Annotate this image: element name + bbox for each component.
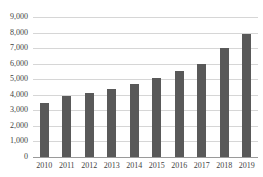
x-tick-label-2017: 2017	[194, 161, 210, 170]
x-tick-label-2010: 2010	[36, 161, 52, 170]
bar-2011[interactable]	[62, 96, 71, 157]
y-tick-label: 0	[24, 153, 28, 161]
bar-2013[interactable]	[107, 89, 116, 157]
bars-layer	[33, 17, 258, 157]
bar-2012[interactable]	[85, 93, 94, 157]
y-tick-label: 5,000	[10, 75, 28, 83]
gridline-0	[33, 157, 258, 158]
y-tick-label: 6,000	[10, 60, 28, 68]
bar-2018[interactable]	[220, 48, 229, 157]
x-tick-label-2015: 2015	[149, 161, 165, 170]
x-tick-label-2016: 2016	[171, 161, 187, 170]
bar-2019[interactable]	[242, 34, 251, 157]
y-tick-label: 8,000	[10, 29, 28, 37]
y-tick-label: 3,000	[10, 106, 28, 114]
x-tick-label-2014: 2014	[126, 161, 142, 170]
bar-2010[interactable]	[40, 103, 49, 157]
y-tick-label: 7,000	[10, 44, 28, 52]
bar-chart-figure: ESTIMATED 2010-2019 01,0002,0003,0004,00…	[0, 0, 263, 177]
x-tick-label-2012: 2012	[81, 161, 97, 170]
bar-2015[interactable]	[152, 78, 161, 157]
y-tick-label: 9,000	[10, 13, 28, 21]
x-tick-label-2013: 2013	[104, 161, 120, 170]
x-tick-label-2019: 2019	[239, 161, 255, 170]
y-tick-label: 4,000	[10, 91, 28, 99]
y-tick-label: 1,000	[10, 137, 28, 145]
x-tick-label-2011: 2011	[59, 161, 75, 170]
x-tick-label-2018: 2018	[216, 161, 232, 170]
y-axis-tick-labels: 01,0002,0003,0004,0005,0006,0007,0008,00…	[0, 17, 31, 157]
bar-2014[interactable]	[130, 84, 139, 157]
bar-2017[interactable]	[197, 64, 206, 157]
y-tick-label: 2,000	[10, 122, 28, 130]
chart-title: ESTIMATED 2010-2019	[30, 0, 139, 1]
bar-2016[interactable]	[175, 71, 184, 157]
x-axis-tick-labels: 2010201120122013201420152016201720182019	[33, 161, 258, 173]
